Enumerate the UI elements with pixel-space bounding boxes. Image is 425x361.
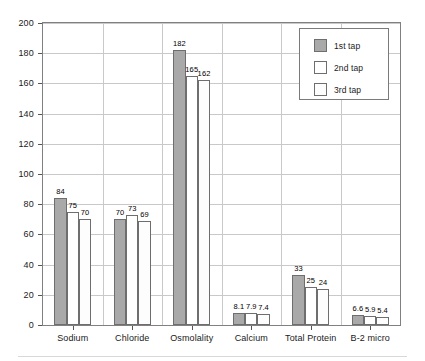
y-axis-tick-mark (38, 234, 42, 235)
legend-item[interactable]: 2nd tap (314, 61, 363, 74)
x-axis-category-label: Total Protein (285, 333, 336, 343)
y-axis-tick-label: 80 (24, 199, 34, 209)
bar (173, 50, 185, 325)
y-axis-tick-label: 40 (24, 260, 34, 270)
bar (67, 212, 79, 325)
x-axis-category-label: Calcium (235, 333, 268, 343)
bar (114, 219, 126, 325)
bar-value-label: 70 (116, 208, 125, 217)
y-axis-tick-mark (38, 114, 42, 115)
bar (54, 198, 66, 325)
bar-value-label: 70 (81, 208, 90, 217)
bar (138, 221, 150, 325)
legend-color-swatch (314, 39, 327, 52)
x-axis-tick-mark (370, 326, 371, 330)
x-axis-category-label: Osmolality (170, 333, 213, 343)
y-axis-tick-mark (38, 295, 42, 296)
bar (376, 317, 388, 325)
bottom-divider (18, 356, 407, 357)
bar-value-label: 84 (56, 187, 65, 196)
gridline-vertical (162, 23, 163, 325)
bar-value-label: 75 (68, 201, 77, 210)
legend-item[interactable]: 3rd tap (314, 83, 361, 96)
x-axis-category-label: B-2 micro (351, 333, 390, 343)
bar-value-label: 182 (173, 39, 186, 48)
chart-legend: 1st tap2nd tap3rd tap (299, 28, 389, 100)
y-axis-tick-mark (38, 83, 42, 84)
legend-color-swatch (314, 61, 327, 74)
bar (364, 316, 376, 325)
bar (245, 313, 257, 325)
bar-value-label: 162 (198, 69, 211, 78)
bar (186, 76, 198, 325)
y-axis-tick-mark (38, 265, 42, 266)
y-axis: 020406080100120140160180200 (0, 0, 34, 361)
bar-value-label: 5.9 (365, 305, 376, 314)
legend-item[interactable]: 1st tap (314, 39, 360, 52)
gridline-vertical (281, 23, 282, 325)
bar-value-label: 7.9 (246, 302, 257, 311)
y-axis-tick-label: 140 (18, 109, 34, 119)
y-axis-tick-label: 200 (18, 18, 34, 28)
bar-value-label: 25 (306, 276, 315, 285)
legend-color-swatch (314, 83, 327, 96)
y-axis-tick-label: 20 (24, 290, 34, 300)
y-axis-tick-mark (38, 204, 42, 205)
bar-value-label: 73 (128, 204, 137, 213)
bar (233, 313, 245, 325)
x-axis-tick-mark (132, 326, 133, 330)
bar-value-label: 69 (140, 210, 149, 219)
y-axis-tick-label: 0 (29, 320, 34, 330)
bar-value-label: 165 (185, 65, 198, 74)
bar (317, 289, 329, 325)
legend-item-label: 2nd tap (334, 63, 363, 73)
y-axis-tick-label: 120 (18, 139, 34, 149)
gridline-vertical (103, 23, 104, 325)
bar (305, 287, 317, 325)
bar-chart: 020406080100120140160180200 SodiumChlori… (0, 0, 425, 361)
y-axis-tick-mark (38, 325, 42, 326)
bar-value-label: 33 (294, 264, 303, 273)
x-axis-tick-mark (311, 326, 312, 330)
bar (292, 275, 304, 325)
bar-value-label: 6.6 (353, 304, 364, 313)
bar (126, 215, 138, 325)
bar (257, 314, 269, 325)
bar-value-label: 7.4 (258, 303, 269, 312)
x-axis-tick-mark (251, 326, 252, 330)
x-axis-category-label: Sodium (57, 333, 88, 343)
y-axis-tick-mark (38, 53, 42, 54)
y-axis-tick-mark (38, 23, 42, 24)
x-axis-tick-mark (73, 326, 74, 330)
bar (352, 315, 364, 325)
y-axis-tick-label: 180 (18, 48, 34, 58)
y-axis-tick-label: 100 (18, 169, 34, 179)
y-axis-tick-mark (38, 174, 42, 175)
x-axis-category-label: Chloride (115, 333, 149, 343)
bar-value-label: 5.4 (377, 306, 388, 315)
y-axis-tick-mark (38, 144, 42, 145)
legend-item-label: 3rd tap (334, 85, 361, 95)
y-axis-tick-label: 160 (18, 78, 34, 88)
bar (79, 219, 91, 325)
gridline-vertical (222, 23, 223, 325)
y-axis-tick-label: 60 (24, 229, 34, 239)
x-axis-tick-mark (192, 326, 193, 330)
bar (198, 80, 210, 325)
bar-value-label: 8.1 (234, 302, 245, 311)
legend-item-label: 1st tap (334, 41, 360, 51)
bar-value-label: 24 (319, 278, 328, 287)
